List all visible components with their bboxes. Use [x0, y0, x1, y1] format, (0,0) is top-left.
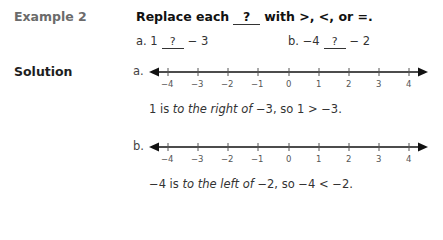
tick-label: 0 [286, 79, 291, 89]
tick-label: −3 [191, 154, 204, 164]
tick-label: −1 [251, 79, 264, 89]
tick-label: 3 [376, 79, 381, 89]
number-line-b-letter: b. [133, 139, 144, 153]
tick-label: −2 [221, 154, 234, 164]
tick-label: 2 [346, 154, 351, 164]
tick-label: 2 [346, 79, 351, 89]
arrow-right-icon [418, 143, 428, 152]
tick-label: −1 [251, 154, 264, 164]
statement-a: 1 is to the right of −3, so 1 > −3. [149, 102, 342, 116]
tick-label: 1 [316, 154, 321, 164]
tick-label: 4 [406, 79, 411, 89]
statement-a-end: −3, so 1 > −3. [256, 102, 342, 116]
arrow-left-icon [149, 68, 159, 77]
statement-b-italic: to the left of [182, 177, 253, 191]
number-line-b [149, 143, 428, 152]
tick-label: −4 [161, 79, 174, 89]
tick-label: −4 [161, 154, 174, 164]
tick-label: −2 [221, 79, 234, 89]
statement-b-start: −4 is [149, 177, 179, 191]
arrow-left-icon [149, 143, 159, 152]
number-line-a [149, 68, 428, 77]
statement-a-italic: to the right of [173, 102, 253, 116]
tick-label: 3 [376, 154, 381, 164]
tick-label: 4 [406, 154, 411, 164]
tick-label: −3 [191, 79, 204, 89]
statement-b-end: −2, so −4 < −2. [257, 177, 352, 191]
tick-label: 1 [316, 79, 321, 89]
arrow-right-icon [418, 68, 428, 77]
statement-b: −4 is to the left of −2, so −4 < −2. [149, 177, 353, 191]
tick-label: 0 [286, 154, 291, 164]
statement-a-start: 1 is [149, 102, 169, 116]
